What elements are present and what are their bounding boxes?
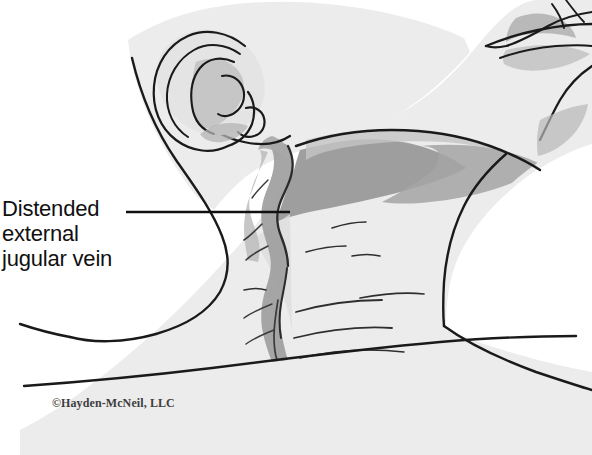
callout-label-line-3: jugular vein [2, 246, 127, 271]
illustration-page: Distended external jugular vein ©Hayden-… [0, 0, 592, 455]
shoulder-contour-upper [20, 324, 70, 337]
copyright-notice: ©Hayden-McNeil, LLC [52, 396, 175, 411]
callout-label-line-1: Distended [2, 196, 127, 221]
callout-label: Distended external jugular vein [2, 196, 127, 271]
callout-label-line-2: external [2, 221, 127, 246]
